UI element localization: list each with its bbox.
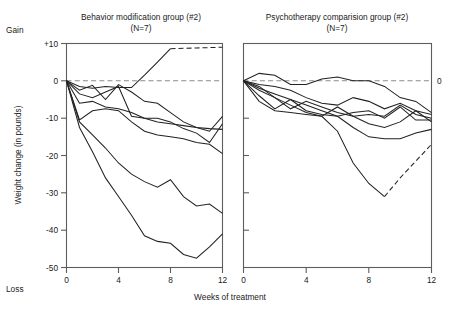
series-line — [67, 81, 223, 258]
right-x-tick-label-12: 12 — [427, 275, 437, 285]
series-line — [67, 81, 223, 154]
right-panel-subtitle: (N=7) — [327, 23, 348, 33]
left-panel-subtitle: (N=7) — [131, 23, 152, 33]
left-x-ticks — [67, 268, 223, 274]
left-x-tick-label-8: 8 — [168, 275, 173, 285]
y-tick-label-minus10: -10 — [46, 113, 58, 123]
left-plot-frame — [67, 44, 223, 268]
left-panel: Behavior modification group (#2) (N=7) +… — [44, 12, 228, 285]
weight-change-figure: Behavior modification group (#2) (N=7) +… — [0, 0, 459, 319]
y-tick-label-minus20: -20 — [46, 151, 58, 161]
left-series-group — [67, 47, 223, 258]
y-tick-label-plus10: +10 — [44, 39, 58, 49]
left-x-tick-label-12: 12 — [218, 275, 228, 285]
gain-label: Gain — [6, 25, 24, 35]
right-x-tick-label-0: 0 — [241, 275, 246, 285]
right-panel-title: Psychotherapy comparision group (#2) — [266, 12, 409, 22]
y-tick-label-minus50: -50 — [46, 263, 58, 273]
y-tick-label-minus30: -30 — [46, 188, 58, 198]
left-x-tick-label-0: 0 — [64, 275, 69, 285]
series-line-solid-segment — [67, 49, 171, 89]
loss-label: Loss — [6, 284, 24, 294]
right-x-ticks — [244, 268, 432, 274]
right-x-tick-label-4: 4 — [304, 275, 309, 285]
right-panel: Psychotherapy comparision group (#2) (N=… — [241, 12, 442, 285]
series-line-dashed-segment — [171, 47, 223, 49]
left-y-ticks — [61, 44, 67, 268]
x-axis-title: Weeks of treatment — [194, 292, 266, 302]
y-tick-label-minus40: -40 — [46, 225, 58, 235]
series-line-solid-segment — [244, 81, 385, 197]
right-zero-tick-label: 0 — [437, 76, 442, 86]
left-panel-title: Behavior modification group (#2) — [81, 12, 201, 22]
series-line — [67, 81, 223, 143]
left-x-tick-label-4: 4 — [116, 275, 121, 285]
y-tick-label-0: 0 — [53, 76, 58, 86]
series-line-dashed-segment — [385, 144, 432, 196]
series-line — [244, 81, 432, 120]
right-series-group — [244, 73, 432, 196]
right-x-tick-label-8: 8 — [366, 275, 371, 285]
y-axis-title: Weight change (in pounds) — [13, 105, 23, 204]
right-y-ticks — [244, 118, 250, 230]
